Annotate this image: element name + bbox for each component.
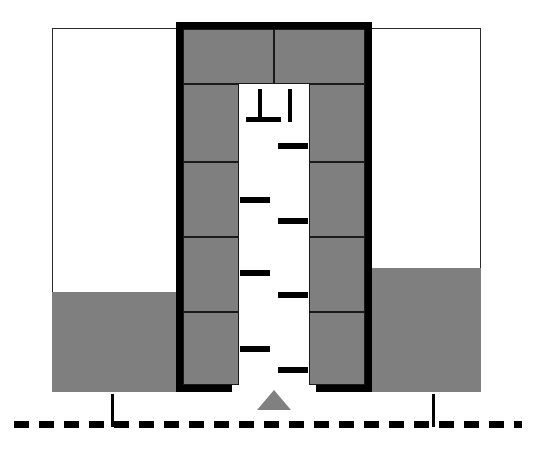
vertical-bar-mark <box>288 89 292 122</box>
rung-mark-5-right <box>278 292 308 298</box>
top-band-left-segment <box>183 29 274 84</box>
left-wall-panel-3 <box>183 237 239 312</box>
right-wall-panel-1 <box>309 84 365 162</box>
frame-left-bar <box>176 22 183 392</box>
frame-foot-right <box>316 385 372 392</box>
rung-mark-6-left <box>240 346 270 352</box>
right-wall-panel-2 <box>309 162 365 237</box>
left-soil-fill <box>52 292 180 392</box>
left-wall-panel-4 <box>183 312 239 385</box>
tee-stem-mark <box>258 89 262 119</box>
right-wall-panel-4 <box>309 312 365 385</box>
tee-base-mark <box>246 117 281 122</box>
rung-mark-7-right <box>278 367 308 373</box>
frame-right-bar <box>365 22 372 392</box>
rung-mark-3-right <box>278 218 308 224</box>
grade-datum-line <box>14 421 522 428</box>
level-triangle-marker <box>257 390 291 410</box>
frame-top-bar <box>176 22 372 29</box>
rung-mark-4-left <box>240 270 270 276</box>
left-wall-panel-1 <box>183 84 239 162</box>
diagram-canvas <box>0 0 533 457</box>
top-band-right-segment <box>274 29 365 84</box>
rung-mark-1-right <box>278 143 308 149</box>
rung-mark-2-left <box>240 197 270 203</box>
frame-foot-left <box>176 385 232 392</box>
right-wall-panel-3 <box>309 237 365 312</box>
left-wall-panel-2 <box>183 162 239 237</box>
right-soil-fill <box>368 268 481 392</box>
